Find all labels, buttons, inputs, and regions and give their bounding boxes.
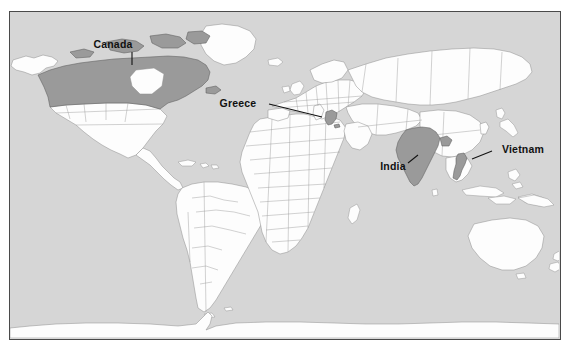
label-canada: Canada — [93, 38, 132, 50]
landmass-asia — [344, 48, 550, 206]
landmass-australia — [468, 195, 559, 279]
leader-line-vietnam — [472, 151, 492, 159]
label-greece: Greece — [220, 97, 257, 109]
world-map-figure: Canada Greece India Vietnam — [0, 0, 572, 349]
label-india: India — [380, 160, 406, 172]
label-vietnam: Vietnam — [502, 143, 544, 155]
map-frame: Canada Greece India Vietnam — [9, 11, 561, 340]
world-map-graphic: Canada Greece India Vietnam — [10, 12, 559, 338]
landmass-antarctica — [10, 312, 559, 338]
landmass-africa — [240, 114, 360, 254]
